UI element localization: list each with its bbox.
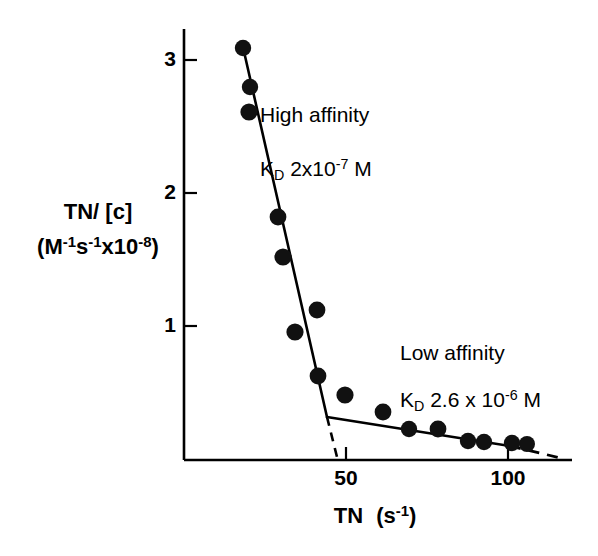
data-point	[460, 433, 476, 449]
x-axis-label: TN (s-1)	[280, 502, 470, 528]
data-point	[519, 436, 535, 452]
data-point	[274, 248, 291, 265]
data-point	[476, 434, 492, 450]
data-point	[286, 323, 303, 340]
annotation-high-affinity-title: High affinity	[260, 103, 369, 127]
data-point	[309, 302, 326, 319]
kd-exponent-high: -7	[336, 156, 349, 172]
x-units-open: (s	[376, 503, 396, 528]
x-axis-tick-label-50: 50	[322, 466, 370, 490]
y-axis-label-primary: TN/ [c]	[22, 199, 174, 224]
data-point	[242, 79, 258, 95]
high-affinity-fit-extension-dashed	[327, 417, 338, 461]
scatchard-plot-figure: 3 2 1 50 100 TN/ [c] (M-1s-1x10-8) TN (s…	[0, 0, 598, 556]
x-axis-tick-label-100: 100	[481, 466, 535, 490]
kd-subscript-high: D	[274, 167, 284, 183]
kd-unit-high: M	[354, 157, 372, 180]
y-axis-tick-label-3: 3	[150, 47, 176, 71]
data-point	[240, 103, 257, 120]
annotation-low-affinity-kd: KD 2.6 x 10-6 M	[400, 387, 541, 414]
kd-exponent-low: -6	[505, 387, 518, 403]
data-point	[401, 421, 417, 437]
y-units-seconds: s	[76, 234, 88, 259]
kd-value-high: 2x10	[290, 157, 336, 180]
kd-subscript-low: D	[414, 398, 424, 414]
x-label-text: TN	[334, 503, 363, 528]
kd-symbol-high: K	[260, 157, 274, 180]
data-point	[310, 368, 327, 385]
y-units-multiplier: x10	[102, 234, 139, 259]
kd-value-low: 2.6 x 10	[430, 388, 505, 411]
y-units-exponent-2: -1	[88, 233, 101, 250]
data-point	[375, 404, 392, 421]
data-point	[235, 40, 251, 56]
y-units-exponent-1: -1	[63, 233, 76, 250]
data-point	[336, 386, 353, 403]
y-axis-ticks	[184, 60, 197, 326]
data-point	[270, 209, 287, 226]
data-point	[504, 435, 520, 451]
annotation-low-affinity-title: Low affinity	[400, 341, 505, 365]
kd-unit-low: M	[523, 388, 541, 411]
y-units-open: (M	[37, 234, 63, 259]
y-axis-label-units: (M-1s-1x10-8)	[18, 233, 178, 259]
x-units-exponent: -1	[396, 502, 409, 519]
data-point	[430, 421, 447, 438]
y-units-exponent-3: -8	[138, 233, 151, 250]
x-units-close: )	[409, 503, 416, 528]
annotation-high-affinity-kd: KD 2x10-7 M	[260, 156, 372, 183]
y-units-close: )	[152, 234, 159, 259]
kd-symbol-low: K	[400, 388, 414, 411]
y-axis-tick-label-1: 1	[150, 313, 176, 337]
